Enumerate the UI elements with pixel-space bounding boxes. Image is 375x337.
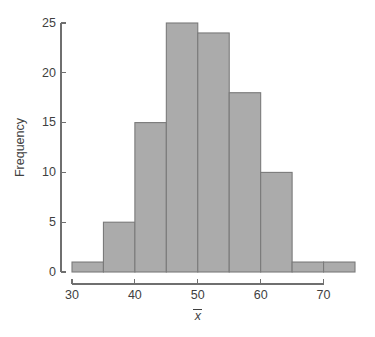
chart-canvas: 0510152025 3040506070 Frequencyx [0, 0, 375, 337]
histogram-bar [229, 93, 260, 272]
x-axis-tick-label: 60 [254, 288, 268, 302]
histogram-bar [166, 23, 197, 272]
y-axis-tick-label: 20 [42, 66, 56, 80]
histogram-bar [324, 262, 355, 272]
histogram-chart: 0510152025 3040506070 Frequencyx [0, 0, 375, 337]
y-axis-tick-label: 10 [42, 165, 56, 179]
histogram-bar [261, 172, 292, 272]
x-axis-tick-label: 30 [65, 288, 79, 302]
y-axis-tick-label: 0 [49, 265, 56, 279]
y-axis-title: Frequency [13, 117, 27, 177]
histogram-bar [135, 123, 166, 272]
histogram-bar [198, 33, 229, 272]
y-axis-tick-label: 15 [42, 115, 56, 129]
histogram-bar [103, 222, 134, 272]
histogram-bar [72, 262, 103, 272]
x-axis-tick-label: 70 [317, 288, 331, 302]
y-axis-tick-label: 25 [42, 16, 56, 30]
x-axis-tick-label: 50 [191, 288, 205, 302]
y-axis-tick-label: 5 [49, 215, 56, 229]
x-axis-title: x [194, 309, 202, 323]
x-axis-tick-label: 40 [128, 288, 142, 302]
histogram-bar [292, 262, 323, 272]
